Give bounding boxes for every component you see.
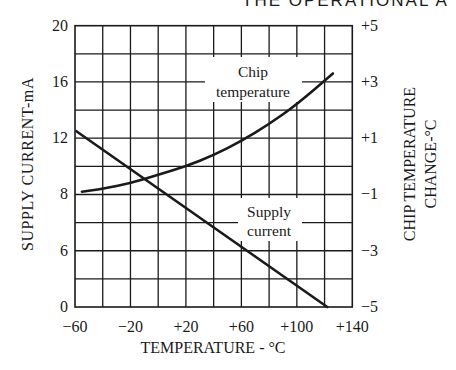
y-left-axis-tick-labels: 201612860 <box>52 17 68 315</box>
chip-temperature-label-line2: temperature <box>216 83 290 100</box>
y-right-tick-label: −3 <box>361 242 378 259</box>
x-tick-label: +20 <box>173 318 198 335</box>
y-right-axis-title-line1: CHIP TEMPERATURE <box>401 87 418 241</box>
supply-current-label-line2: current <box>247 222 292 239</box>
x-axis-tick-labels: −60−20+20+60+100+140 <box>62 318 368 335</box>
y-left-tick-label: 0 <box>60 298 68 315</box>
y-right-axis-title-line2: CHANGE-°C <box>422 119 439 208</box>
y-left-axis-title: SUPPLY CURRENT-mA <box>19 77 36 251</box>
x-tick-label: −60 <box>62 318 87 335</box>
y-right-tick-label: −1 <box>361 185 378 202</box>
supply-current-label-line1: Supply <box>247 203 291 220</box>
x-axis-title: TEMPERATURE - °C <box>140 339 285 356</box>
y-left-tick-label: 16 <box>52 73 68 90</box>
y-right-axis-tick-labels: +5+3+1−1−3−5 <box>361 17 378 315</box>
y-right-tick-label: −5 <box>361 298 378 315</box>
x-tick-label: +100 <box>280 318 313 335</box>
chip-temperature-label-line1: Chip <box>238 63 268 80</box>
y-right-tick-label: +3 <box>361 73 378 90</box>
page-header-fragment: THE OPERATIONAL A <box>242 0 449 10</box>
x-tick-label: +60 <box>229 318 254 335</box>
y-right-tick-label: +1 <box>361 129 378 146</box>
x-tick-label: +140 <box>336 318 369 335</box>
x-tick-label: −20 <box>118 318 143 335</box>
y-left-tick-label: 20 <box>52 17 68 34</box>
y-right-tick-label: +5 <box>361 17 378 34</box>
y-left-tick-label: 12 <box>52 129 68 146</box>
y-left-tick-label: 6 <box>60 242 68 259</box>
y-left-tick-label: 8 <box>60 185 68 202</box>
plot-area <box>75 26 352 307</box>
